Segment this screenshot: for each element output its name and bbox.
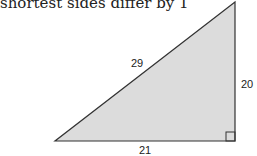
right-triangle-diagram: 29 20 21: [0, 0, 257, 156]
horizontal-leg-label: 21: [139, 144, 151, 156]
vertical-leg-label: 20: [241, 78, 253, 90]
hypotenuse-label: 29: [131, 57, 143, 69]
triangle-shape: [55, 2, 235, 141]
